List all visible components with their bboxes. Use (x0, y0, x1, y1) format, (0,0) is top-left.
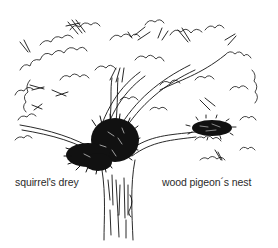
wood-pigeons-nest (186, 115, 236, 140)
tree-trunk (102, 160, 135, 240)
tree-drawing (0, 0, 278, 248)
label-wood-pigeons-nest: wood pigeon´s nest (162, 176, 251, 188)
label-squirrels-drey: squirrel's drey (15, 176, 79, 188)
tree-illustration-figure: squirrel's drey wood pigeon´s nest (0, 0, 278, 248)
